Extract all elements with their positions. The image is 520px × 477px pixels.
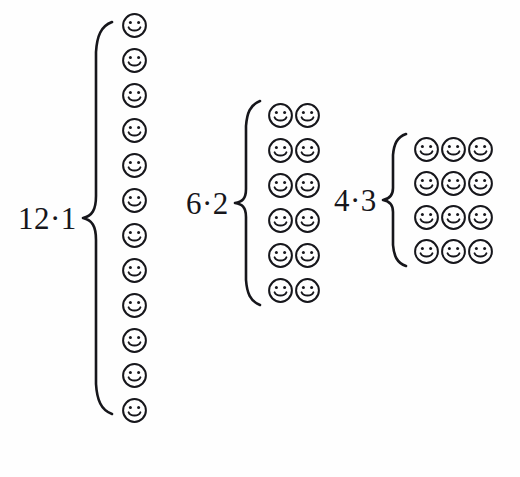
- smiley-row: [121, 327, 148, 354]
- smiley-face-icon: [294, 207, 321, 234]
- smiley-row: [121, 187, 148, 214]
- smiley-grid-4-3: [409, 136, 494, 265]
- smiley-grid-6-2: [263, 102, 321, 304]
- smiley-row: [121, 82, 148, 109]
- smiley-row: [267, 242, 321, 269]
- smiley-face-icon: [413, 238, 440, 265]
- smiley-face-icon: [121, 292, 148, 319]
- smiley-row: [121, 222, 148, 249]
- smiley-face-icon: [121, 187, 148, 214]
- left-curly-brace-icon: [81, 18, 115, 418]
- smiley-row: [413, 136, 494, 163]
- smiley-face-icon: [440, 136, 467, 163]
- smiley-row: [267, 172, 321, 199]
- smiley-face-icon: [294, 277, 321, 304]
- group-label-4-3: 4·3: [334, 185, 381, 216]
- smiley-face-icon: [440, 170, 467, 197]
- smiley-face-icon: [267, 207, 294, 234]
- smiley-row: [267, 102, 321, 129]
- smiley-face-icon: [121, 362, 148, 389]
- group-label-6-2: 6·2: [186, 188, 233, 219]
- smiley-row: [121, 292, 148, 319]
- smiley-face-icon: [121, 117, 148, 144]
- smiley-face-icon: [121, 82, 148, 109]
- smiley-row: [413, 204, 494, 231]
- smiley-face-icon: [294, 137, 321, 164]
- smiley-face-icon: [440, 238, 467, 265]
- smiley-row: [413, 170, 494, 197]
- smiley-face-icon: [121, 257, 148, 284]
- smiley-row: [121, 362, 148, 389]
- smiley-face-icon: [294, 102, 321, 129]
- smiley-face-icon: [121, 397, 148, 424]
- smiley-face-icon: [121, 12, 148, 39]
- smiley-face-icon: [467, 170, 494, 197]
- smiley-row: [267, 207, 321, 234]
- smiley-face-icon: [440, 204, 467, 231]
- smiley-face-icon: [467, 238, 494, 265]
- smiley-row: [121, 117, 148, 144]
- smiley-row: [121, 12, 148, 39]
- smiley-face-icon: [413, 170, 440, 197]
- smiley-grid-12-1: [115, 12, 148, 424]
- factor-group-4-3: 4·3: [334, 130, 494, 270]
- smiley-row: [121, 47, 148, 74]
- smiley-face-icon: [121, 222, 148, 249]
- smiley-face-icon: [413, 204, 440, 231]
- smiley-row: [121, 152, 148, 179]
- multiplication-array-figure: 12·1: [0, 0, 520, 477]
- smiley-face-icon: [121, 47, 148, 74]
- left-curly-brace-icon: [233, 97, 263, 309]
- smiley-row: [267, 277, 321, 304]
- smiley-face-icon: [267, 172, 294, 199]
- smiley-face-icon: [121, 327, 148, 354]
- factor-group-6-2: 6·2: [186, 97, 321, 309]
- smiley-face-icon: [294, 242, 321, 269]
- left-curly-brace-icon: [381, 130, 409, 270]
- smiley-face-icon: [267, 277, 294, 304]
- smiley-row: [121, 397, 148, 424]
- smiley-row: [267, 137, 321, 164]
- smiley-face-icon: [267, 242, 294, 269]
- smiley-row: [121, 257, 148, 284]
- factor-group-12-1: 12·1: [18, 12, 148, 424]
- smiley-face-icon: [121, 152, 148, 179]
- smiley-face-icon: [413, 136, 440, 163]
- smiley-face-icon: [467, 136, 494, 163]
- smiley-face-icon: [467, 204, 494, 231]
- smiley-face-icon: [294, 172, 321, 199]
- smiley-row: [413, 238, 494, 265]
- group-label-12-1: 12·1: [18, 203, 81, 234]
- smiley-face-icon: [267, 137, 294, 164]
- smiley-face-icon: [267, 102, 294, 129]
